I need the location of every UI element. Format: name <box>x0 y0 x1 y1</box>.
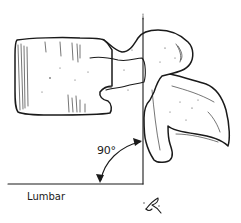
arrowhead-bottom <box>96 174 104 183</box>
region-label: Lumbar <box>27 192 65 202</box>
angle-label: 90° <box>97 145 116 156</box>
signature-icon <box>143 198 161 213</box>
arrowhead-top <box>133 138 142 146</box>
vertebral-body <box>15 38 112 115</box>
vertebra-diagram <box>0 0 241 223</box>
